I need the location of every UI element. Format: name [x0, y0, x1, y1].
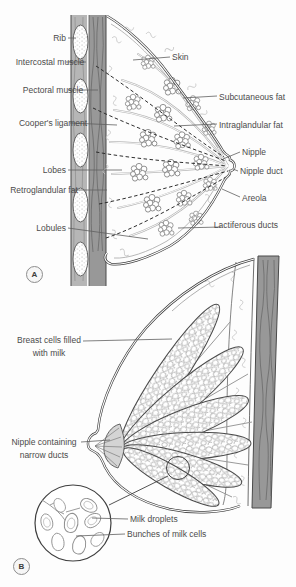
label-breast-cells-filled-with-milk: Breast cells filled with milk: [16, 334, 82, 359]
panel-b-chest-wall: [248, 256, 279, 508]
label-nipple-containing-narrow-ducts: Nipple containing narrow ducts: [8, 436, 80, 461]
label-pectoral-muscle: Pectoral muscle: [17, 84, 89, 97]
label-lobes: Lobes: [30, 164, 66, 177]
label-coopers-ligament: Cooper's ligament: [17, 117, 89, 130]
milk-filled-lobes: [110, 297, 254, 515]
label-intercostal-muscle: Intercostal muscle: [14, 56, 86, 69]
panel-b-breast: [88, 259, 254, 514]
label-bunches-of-milk-cells: Bunches of milk cells: [127, 528, 206, 541]
panel-b-badge: B: [13, 558, 30, 575]
label-areola: Areola: [242, 192, 267, 205]
label-subcutaneous-fat: Subcutaneous fat: [219, 91, 285, 104]
label-nipple: Nipple: [242, 146, 266, 159]
label-rib: Rib: [36, 32, 66, 45]
label-retroglandular-fat: Retroglandular fat: [8, 184, 80, 197]
label-lobules: Lobules: [30, 222, 66, 235]
label-nipple-duct: Nipple duct: [240, 165, 283, 178]
nipple-b: [95, 424, 124, 468]
panel-a-coopers-ligaments-dashed: [93, 66, 228, 238]
label-milk-droplets: Milk droplets: [130, 513, 178, 526]
label-skin: Skin: [172, 51, 189, 64]
label-lactiferous-ducts: Lactiferous ducts: [213, 219, 279, 232]
breast-anatomy-figure: Rib Intercostal muscle Pectoral muscle C…: [0, 0, 296, 587]
label-intraglandular-fat: Intraglandular fat: [219, 119, 283, 132]
panel-a-badge: A: [26, 266, 43, 283]
